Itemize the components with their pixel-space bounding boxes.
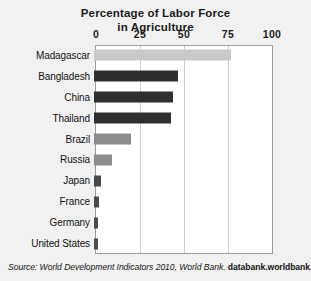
bar-china	[94, 92, 173, 103]
bar-france	[94, 196, 99, 207]
bar-row: France	[26, 191, 284, 212]
bar-track	[93, 233, 271, 254]
bar-label-bangladesh: Bangladesh	[26, 71, 93, 82]
bar-russia	[94, 154, 112, 165]
chart-title-line-1: Percentage of Labor Force	[0, 6, 311, 20]
bar-track	[93, 129, 271, 150]
chart-frame: 0255075100 MadagascarBangladeshChinaThai…	[26, 45, 284, 254]
bar-row: China	[26, 87, 284, 108]
x-axis-tick-25: 25	[134, 28, 146, 40]
source-link[interactable]: databank.worldbank.org	[228, 262, 311, 272]
bar-bangladesh	[94, 71, 178, 82]
bar-label-china: China	[26, 92, 93, 103]
x-axis-tick-labels: 0255075100	[26, 28, 284, 43]
bar-label-japan: Japan	[26, 175, 93, 186]
x-axis-tick-100: 100	[263, 28, 281, 40]
bar-madagascar	[94, 50, 231, 61]
bar-row: Madagascar	[26, 45, 284, 66]
bar-row: Russia	[26, 150, 284, 171]
x-axis-tick-0: 0	[93, 28, 99, 40]
bar-track	[93, 108, 271, 129]
bar-label-france: France	[26, 196, 93, 207]
bar-track	[93, 87, 271, 108]
bar-track	[93, 191, 271, 212]
bar-label-thailand: Thailand	[26, 113, 93, 124]
x-axis-tick-75: 75	[222, 28, 234, 40]
source-note: Source: World Development Indicators 201…	[8, 262, 308, 272]
bar-row: Japan	[26, 170, 284, 191]
bar-row: Brazil	[26, 129, 284, 150]
bar-row: United States	[26, 233, 284, 254]
bar-track	[93, 45, 271, 66]
bar-track	[93, 150, 271, 171]
bar-label-brazil: Brazil	[26, 134, 93, 145]
bar-track	[93, 170, 271, 191]
bar-row: Bangladesh	[26, 66, 284, 87]
bar-label-united-states: United States	[26, 238, 93, 249]
bar-label-russia: Russia	[26, 154, 93, 165]
bar-japan	[94, 175, 101, 186]
bar-track	[93, 66, 271, 87]
bar-brazil	[94, 134, 131, 145]
bar-track	[93, 212, 271, 233]
bar-label-madagascar: Madagascar	[26, 50, 93, 61]
bar-rows: MadagascarBangladeshChinaThailandBrazilR…	[26, 45, 284, 254]
bar-thailand	[94, 113, 171, 124]
x-axis-tick-50: 50	[178, 28, 190, 40]
bar-united-states	[94, 238, 98, 249]
bar-row: Thailand	[26, 108, 284, 129]
source-text: Source: World Development Indicators 201…	[8, 262, 228, 272]
bar-germany	[94, 217, 98, 228]
chart-figure: Percentage of Labor Force in Agriculture…	[0, 0, 311, 281]
bar-label-germany: Germany	[26, 217, 93, 228]
bar-row: Germany	[26, 212, 284, 233]
